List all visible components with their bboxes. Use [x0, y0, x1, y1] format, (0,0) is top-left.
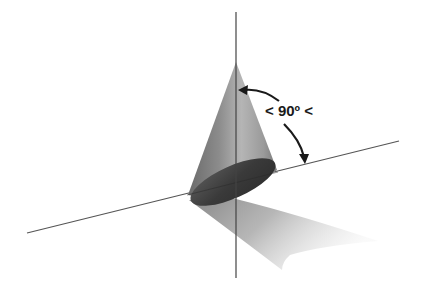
angle-arc-lower: [284, 124, 304, 157]
angle-label: < 90º <: [265, 102, 313, 119]
arrowhead-down-icon: [299, 154, 309, 164]
cone-shadow: [189, 199, 378, 270]
cone-angle-diagram: < 90º <: [0, 0, 424, 286]
